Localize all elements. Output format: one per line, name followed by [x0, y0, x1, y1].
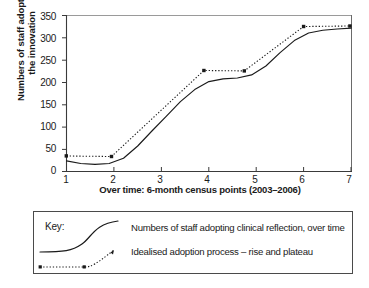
legend-dotted-sample	[40, 250, 114, 267]
series-dotted-line	[67, 26, 352, 157]
axis-frame	[66, 15, 352, 172]
legend-dotted-marker-start	[39, 265, 42, 268]
legend-entry-label-2: Idealised adoption process – rise and pl…	[131, 246, 313, 257]
chart-svg	[0, 0, 369, 200]
legend-solid-sample	[40, 221, 118, 252]
legend-dotted-marker-mid	[83, 265, 86, 268]
x-axis-title: Over time: 6-month census points (2003–2…	[40, 184, 360, 195]
figure: Numbers of staff adopting the innovation…	[0, 0, 369, 288]
legend-entry-label-1: Numbers of staff adopting clinical refle…	[131, 222, 345, 233]
legend-box: Key: Numbers of staff adopting clinical …	[33, 211, 353, 274]
y-axis-ticks	[62, 16, 66, 172]
series-solid-line	[67, 28, 352, 164]
x-axis-ticks	[67, 167, 352, 172]
series-dotted-markers	[65, 24, 352, 158]
chart-plot-area: Numbers of staff adopting the innovation…	[0, 0, 369, 200]
